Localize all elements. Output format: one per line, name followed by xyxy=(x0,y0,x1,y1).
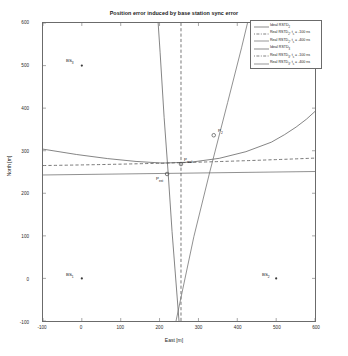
label-p-est: Pest xyxy=(156,176,163,183)
legend-key-dashdot xyxy=(253,31,270,37)
x-tick-label: 300 xyxy=(195,325,203,330)
label-p2: P2 xyxy=(218,128,223,135)
legend: Ideal RSTD2 Real RSTD2, ts = -100 ns Rea… xyxy=(250,20,322,69)
x-tick-label: 0 xyxy=(80,325,83,330)
legend-label-2: Real RSTD2, ts = -400 ns xyxy=(270,39,310,44)
legend-label-0: Ideal RSTD2 xyxy=(270,24,290,29)
y-axis-label: North [m] xyxy=(6,136,12,196)
x-tick-label: 600 xyxy=(312,325,320,330)
legend-label-1: Real RSTD2, ts = -100 ns xyxy=(270,31,310,36)
x-axis-label: East [m] xyxy=(0,337,348,343)
series-ideal-rstd3 xyxy=(158,23,179,321)
legend-item-1[interactable]: Real RSTD2, ts = -100 ns xyxy=(253,30,319,37)
page-title: Position error induced by base station s… xyxy=(0,10,348,16)
series-real-rstd2-400 xyxy=(43,172,315,175)
series-real-rstd3-400 xyxy=(176,23,247,321)
legend-key-solid xyxy=(253,46,270,52)
y-tick-label: 500 xyxy=(21,62,29,67)
position-markers xyxy=(165,133,215,175)
y-tick-label: 300 xyxy=(21,148,29,153)
label-bs1: BS1 xyxy=(66,272,74,279)
label-bs2: BS2 xyxy=(262,272,270,279)
legend-key-dashdot xyxy=(253,53,270,59)
legend-item-2[interactable]: Real RSTD2, ts = -400 ns xyxy=(253,38,319,45)
legend-key-solid xyxy=(253,61,270,67)
legend-label-5: Real RSTD3, ts = -400 ns xyxy=(270,61,310,66)
marker-p2 xyxy=(212,133,216,137)
legend-item-5[interactable]: Real RSTD3, ts = -400 ns xyxy=(253,60,319,67)
x-tick-label: 200 xyxy=(156,325,164,330)
x-tick-label: 500 xyxy=(273,325,281,330)
label-bs3: BS3 xyxy=(66,58,74,65)
legend-label-3: Ideal RSTD3 xyxy=(270,46,290,51)
series-ideal-rstd2 xyxy=(43,111,315,163)
y-tick-label: 400 xyxy=(21,105,29,110)
x-tick-label: 400 xyxy=(234,325,242,330)
legend-item-4[interactable]: Real RSTD3, ts = -100 ns xyxy=(253,53,319,60)
legend-item-0[interactable]: Ideal RSTD2 xyxy=(253,23,319,30)
legend-key-solid xyxy=(253,24,270,30)
y-tick-label: 600 xyxy=(21,20,29,25)
y-tick-label: 100 xyxy=(21,234,29,239)
legend-item-3[interactable]: Ideal RSTD3 xyxy=(253,45,319,52)
legend-key-solid xyxy=(253,38,270,44)
y-tick-label: 200 xyxy=(21,191,29,196)
y-tick-label: 0 xyxy=(26,277,29,282)
marker-bs1 xyxy=(81,277,83,279)
marker-bs2 xyxy=(275,277,277,279)
x-tick-label: 100 xyxy=(116,325,124,330)
y-tick-label: -100 xyxy=(20,320,29,325)
figure-canvas: Position error induced by base station s… xyxy=(0,0,348,356)
legend-label-4: Real RSTD3, ts = -100 ns xyxy=(270,54,310,59)
label-p-real: Preal xyxy=(184,157,192,164)
x-tick-label: -100 xyxy=(37,325,46,330)
marker-bs3 xyxy=(81,65,83,67)
